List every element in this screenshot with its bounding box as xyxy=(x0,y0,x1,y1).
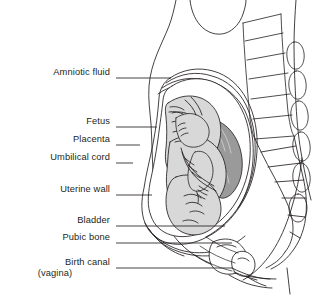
label-placenta: Placenta xyxy=(0,134,110,145)
label-birth-canal: Birth canal (vagina) xyxy=(0,257,110,279)
pregnancy-anatomy-diagram: Amniotic fluid Fetus Placenta Umbilical … xyxy=(0,0,325,306)
label-birth-canal-line2: (vagina) xyxy=(0,268,110,279)
label-fetus: Fetus xyxy=(0,116,110,127)
label-bladder: Bladder xyxy=(0,215,110,226)
label-umbilical-cord: Umbilical cord xyxy=(0,152,110,163)
label-uterine-wall: Uterine wall xyxy=(0,184,110,195)
label-amniotic-fluid: Amniotic fluid xyxy=(0,67,110,78)
label-pubic-bone: Pubic bone xyxy=(0,232,110,243)
label-birth-canal-line1: Birth canal xyxy=(65,257,110,267)
